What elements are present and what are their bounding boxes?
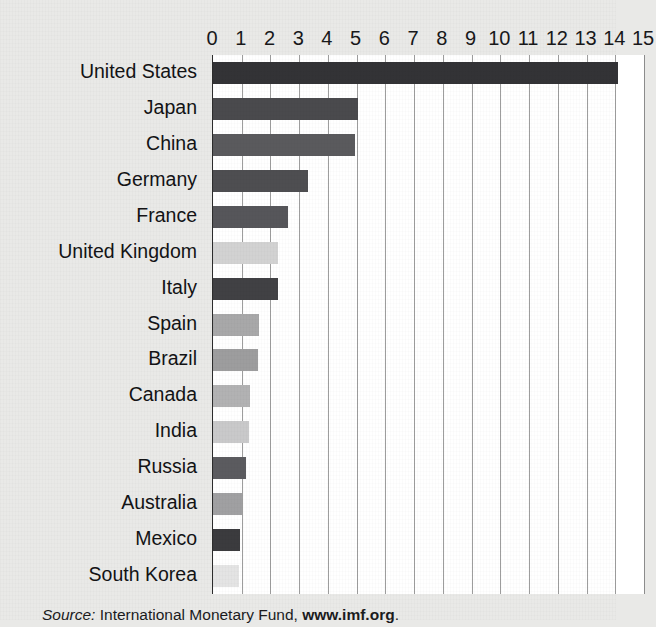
bar-row [213, 170, 644, 192]
bar-mexico [213, 529, 240, 551]
category-label-australia: Australia [32, 491, 205, 514]
bar-row [213, 349, 644, 371]
category-label-brazil: Brazil [32, 347, 205, 370]
source-publisher: International Monetary Fund, [100, 606, 298, 623]
gdp-bar-chart: 0123456789101112131415 United StatesJapa… [40, 16, 656, 627]
bar-brazil [213, 349, 258, 371]
category-label-mexico: Mexico [32, 527, 205, 550]
x-axis-tick-13: 13 [574, 24, 596, 52]
bar-row [213, 98, 644, 120]
bar-germany [213, 170, 308, 192]
x-axis-tick-7: 7 [408, 24, 419, 52]
category-label-china: China [32, 132, 205, 155]
bar-united-kingdom [213, 242, 278, 264]
x-axis-tick-15: 15 [632, 24, 654, 52]
bar-italy [213, 278, 278, 300]
bar-row [213, 493, 644, 515]
category-label-russia: Russia [32, 455, 205, 478]
category-label-canada: Canada [32, 383, 205, 406]
category-label-germany: Germany [32, 168, 205, 191]
source-label: Source: [42, 606, 95, 623]
category-label-south-korea: South Korea [32, 563, 205, 586]
bar-row [213, 565, 644, 587]
bar-south-korea [213, 565, 239, 587]
bar-row [213, 242, 644, 264]
x-axis-tick-12: 12 [546, 24, 568, 52]
bar-row [213, 457, 644, 479]
plot-right-border [644, 55, 645, 594]
x-axis-tick-6: 6 [379, 24, 390, 52]
x-axis-tick-4: 4 [321, 24, 332, 52]
bar-row [213, 421, 644, 443]
x-axis-tick-0: 0 [206, 24, 217, 52]
x-axis-tick-10: 10 [488, 24, 510, 52]
x-axis-tick-1: 1 [235, 24, 246, 52]
bar-australia [213, 493, 242, 515]
bar-japan [213, 98, 358, 120]
bar-united-states [213, 62, 618, 84]
source-caption: Source: International Monetary Fund, www… [42, 606, 399, 624]
bar-row [213, 529, 644, 551]
category-label-united-kingdom: United Kingdom [32, 240, 205, 263]
bar-france [213, 206, 288, 228]
bar-spain [213, 314, 259, 336]
x-axis-tick-14: 14 [603, 24, 625, 52]
x-axis-tick-5: 5 [350, 24, 361, 52]
bar-russia [213, 457, 246, 479]
category-label-italy: Italy [32, 276, 205, 299]
category-label-japan: Japan [32, 96, 205, 119]
plot-area [212, 55, 644, 594]
bar-india [213, 421, 249, 443]
category-label-united-states: United States [32, 60, 205, 83]
bar-row [213, 62, 644, 84]
bar-row [213, 278, 644, 300]
x-axis-tick-9: 9 [465, 24, 476, 52]
x-axis-tick-2: 2 [264, 24, 275, 52]
category-label-france: France [32, 204, 205, 227]
bar-row [213, 134, 644, 156]
category-label-india: India [32, 419, 205, 442]
x-axis-tick-labels: 0123456789101112131415 [40, 24, 656, 52]
bar-canada [213, 385, 250, 407]
source-url-link[interactable]: www.imf.org [302, 606, 394, 623]
bar-row [213, 206, 644, 228]
x-axis-tick-8: 8 [436, 24, 447, 52]
x-axis-tick-3: 3 [293, 24, 304, 52]
source-period: . [395, 606, 399, 623]
x-axis-tick-11: 11 [518, 24, 539, 52]
category-label-spain: Spain [32, 312, 205, 335]
bar-row [213, 385, 644, 407]
category-axis-labels: United StatesJapanChinaGermanyFranceUnit… [40, 55, 205, 594]
bar-china [213, 134, 355, 156]
bar-row [213, 314, 644, 336]
